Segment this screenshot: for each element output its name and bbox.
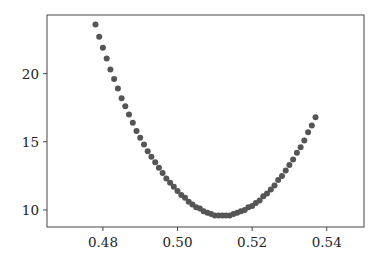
data-point xyxy=(93,22,99,28)
data-point xyxy=(148,154,154,160)
data-point xyxy=(141,142,147,148)
data-point xyxy=(111,76,117,82)
data-point xyxy=(298,144,304,150)
data-point xyxy=(279,173,285,179)
x-tick-label: 0.52 xyxy=(237,234,267,250)
data-points xyxy=(93,22,319,219)
data-point xyxy=(130,120,136,126)
axes-frame xyxy=(47,15,364,227)
x-tick-label: 0.48 xyxy=(88,234,118,250)
x-tick-label: 0.54 xyxy=(312,234,342,250)
x-tick-label: 0.50 xyxy=(162,234,192,250)
y-tick-label: 10 xyxy=(22,202,39,218)
data-point xyxy=(160,170,166,176)
data-point xyxy=(301,137,307,143)
data-point xyxy=(126,112,132,118)
data-point xyxy=(283,167,289,173)
data-point xyxy=(313,114,319,120)
data-point xyxy=(294,150,300,156)
data-point xyxy=(309,122,315,128)
y-axis: 101520 xyxy=(22,66,47,218)
data-point xyxy=(137,135,143,141)
data-point xyxy=(286,162,292,168)
data-point xyxy=(290,157,296,163)
data-point xyxy=(100,45,106,51)
data-point xyxy=(119,95,125,101)
data-point xyxy=(156,165,162,171)
data-point xyxy=(104,56,110,62)
data-point xyxy=(134,128,140,134)
data-point xyxy=(145,148,151,154)
y-tick-label: 20 xyxy=(22,66,39,82)
data-point xyxy=(272,182,278,188)
data-point xyxy=(115,86,121,92)
data-point xyxy=(305,129,311,135)
data-point xyxy=(152,159,158,165)
data-point xyxy=(107,67,113,73)
x-axis: 0.480.500.520.54 xyxy=(88,227,342,250)
y-tick-label: 15 xyxy=(22,134,39,150)
data-point xyxy=(122,103,128,109)
scatter-plot: 0.480.500.520.54 101520 xyxy=(0,0,384,261)
data-point xyxy=(96,34,102,40)
